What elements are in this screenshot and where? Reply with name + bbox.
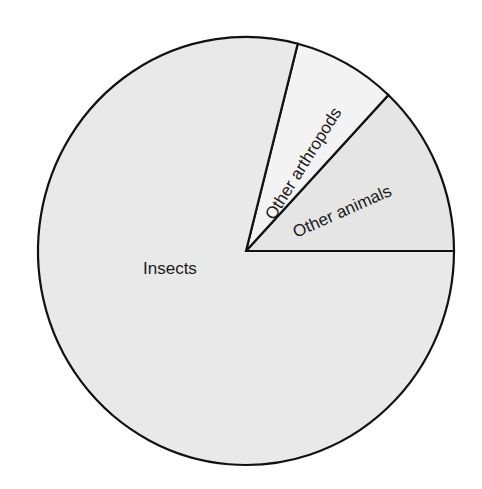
label-insects: Insects bbox=[143, 259, 197, 278]
pie-slices bbox=[38, 37, 454, 465]
pie-chart: Insects Other arthropods Other animals bbox=[0, 0, 482, 489]
